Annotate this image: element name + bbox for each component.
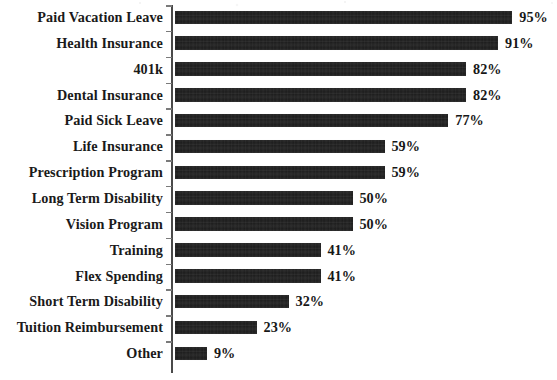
bar [175, 88, 466, 102]
axis-tick [166, 264, 172, 266]
category-label: Paid Sick Leave [0, 110, 163, 131]
bar-row: Paid Vacation Leave95% [0, 5, 557, 31]
axis-tick [166, 108, 172, 110]
axis-tick [166, 5, 172, 7]
category-label: Long Term Disability [0, 188, 163, 209]
bar [175, 347, 207, 361]
bar-value-label: 50% [360, 189, 388, 208]
axis-tick [166, 315, 172, 317]
bar-row: Life Insurance59% [0, 134, 557, 160]
bar-value-label: 23% [264, 318, 292, 337]
bar [175, 269, 321, 283]
bar-row: Long Term Disability50% [0, 186, 557, 212]
axis-tick [166, 212, 172, 214]
bar-value-label: 59% [392, 137, 420, 156]
bar [175, 140, 385, 154]
category-label: Health Insurance [0, 33, 163, 54]
bar [175, 243, 321, 257]
bar-row: Health Insurance91% [0, 31, 557, 57]
bar [175, 321, 257, 335]
axis-tick [166, 83, 172, 85]
bar [175, 166, 385, 180]
chart-plot-area: Paid Vacation Leave95%Health Insurance91… [0, 0, 557, 380]
bar-value-label: 41% [328, 267, 356, 286]
bar [175, 295, 289, 309]
bar-row: Vision Program50% [0, 212, 557, 238]
category-label: Tuition Reimbursement [0, 317, 163, 338]
axis-tick [166, 186, 172, 188]
bar-row: Other9% [0, 341, 557, 367]
bar [175, 191, 353, 205]
bar-value-label: 77% [455, 111, 483, 130]
bar [175, 217, 353, 231]
bar-value-label: 82% [473, 86, 501, 105]
bar-row: Prescription Program59% [0, 160, 557, 186]
category-label: Prescription Program [0, 162, 163, 183]
category-label: Vision Program [0, 214, 163, 235]
bar-value-label: 82% [473, 60, 501, 79]
bar-value-label: 91% [505, 34, 533, 53]
bar [175, 114, 448, 128]
category-label: Life Insurance [0, 136, 163, 157]
bar-value-label: 95% [519, 8, 547, 27]
axis-tick [166, 289, 172, 291]
bar-value-label: 50% [360, 215, 388, 234]
bar-value-label: 32% [296, 292, 324, 311]
axis-tick [166, 134, 172, 136]
category-label: Dental Insurance [0, 85, 163, 106]
category-label: Short Term Disability [0, 291, 163, 312]
category-label: Paid Vacation Leave [0, 7, 163, 28]
bar [175, 11, 512, 25]
bar-row: Training41% [0, 238, 557, 264]
bar-row: 401k82% [0, 57, 557, 83]
category-label: Flex Spending [0, 266, 163, 287]
axis-tick [166, 31, 172, 33]
horizontal-bar-chart: Paid Vacation Leave95%Health Insurance91… [0, 0, 557, 380]
bar [175, 36, 498, 50]
category-label: Training [0, 240, 163, 261]
bar-row: Flex Spending41% [0, 264, 557, 290]
bar-row: Paid Sick Leave77% [0, 108, 557, 134]
category-label: Other [0, 343, 163, 364]
bar-value-label: 59% [392, 163, 420, 182]
category-label: 401k [0, 59, 163, 80]
axis-tick [166, 57, 172, 59]
bar-value-label: 41% [328, 241, 356, 260]
bar-row: Short Term Disability32% [0, 289, 557, 315]
axis-tick [166, 238, 172, 240]
bar-row: Dental Insurance82% [0, 83, 557, 109]
bar [175, 62, 466, 76]
bar-row: Tuition Reimbursement23% [0, 315, 557, 341]
axis-tick [166, 341, 172, 343]
bar-value-label: 9% [214, 344, 235, 363]
axis-tick [166, 160, 172, 162]
